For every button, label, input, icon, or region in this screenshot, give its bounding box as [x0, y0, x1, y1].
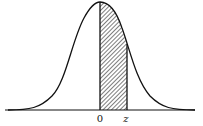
- shaded-region: [100, 2, 127, 110]
- origin-label: 0: [97, 113, 103, 124]
- z-label: z: [122, 113, 129, 124]
- normal-distribution-diagram: 0 z: [0, 0, 203, 126]
